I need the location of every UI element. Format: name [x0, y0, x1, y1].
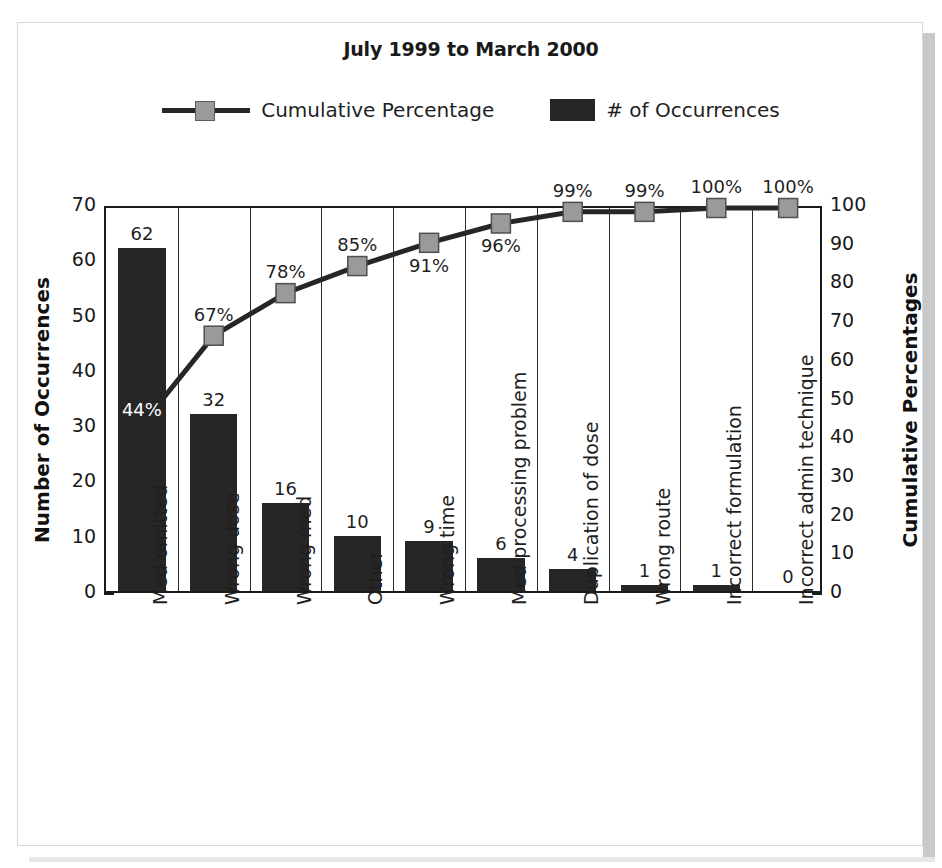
chart-title: July 1999 to March 2000: [0, 38, 942, 60]
category-label-4: Wrong time: [436, 495, 458, 605]
cumulative-marker-4[interactable]: [420, 233, 439, 252]
legend-item-occurrences: # of Occurrences: [550, 98, 780, 122]
category-label-6: Duplication of dose: [580, 422, 602, 605]
y-tick-label-left-50: 50: [56, 304, 96, 326]
y-tick-label-right-30: 30: [830, 464, 874, 486]
cumulative-pct-label-9: 100%: [752, 176, 824, 197]
category-label-1: Wrong dose: [221, 493, 243, 605]
y-axis-title-left: Number of Occurrences: [30, 260, 54, 560]
cumulative-pct-label-6: 99%: [537, 180, 609, 201]
line-marker-icon: [162, 99, 250, 121]
cumulative-marker-1[interactable]: [204, 326, 223, 345]
category-separator: [321, 208, 322, 591]
bar-value-label-3: 10: [321, 511, 393, 532]
y-tick-label-left-60: 60: [56, 248, 96, 270]
category-label-5: Med processing problem: [508, 372, 530, 605]
category-separator: [752, 208, 753, 591]
y-tick-label-right-80: 80: [830, 270, 874, 292]
y-tick-label-left-0: 0: [56, 580, 96, 602]
cumulative-marker-6[interactable]: [563, 202, 582, 221]
cumulative-pct-label-4: 91%: [393, 255, 465, 276]
cumulative-marker-7[interactable]: [635, 202, 654, 221]
cumulative-pct-label-2: 78%: [250, 261, 322, 282]
category-label-8: Incorrect formulation: [723, 405, 745, 605]
y-tick-left: [104, 593, 114, 595]
y-tick-label-left-70: 70: [56, 193, 96, 215]
category-label-0: Med omitted: [149, 485, 171, 605]
category-label-3: Other: [364, 551, 386, 605]
y-tick-label-right-90: 90: [830, 232, 874, 254]
category-separator: [537, 208, 538, 591]
chart-legend: Cumulative Percentage # of Occurrences: [0, 98, 942, 122]
y-tick-label-left-10: 10: [56, 525, 96, 547]
cumulative-pct-label-7: 99%: [609, 180, 681, 201]
cumulative-pct-label-8: 100%: [680, 176, 752, 197]
legend-label-cumulative-percentage: Cumulative Percentage: [261, 98, 494, 122]
y-tick-label-left-20: 20: [56, 469, 96, 491]
bar-value-label-0: 62: [106, 223, 178, 244]
y-tick-label-right-60: 60: [830, 348, 874, 370]
category-separator: [680, 208, 681, 591]
bar-value-label-1: 32: [178, 389, 250, 410]
y-tick-label-right-100: 100: [830, 193, 874, 215]
category-label-9: Incorrect admin technique: [795, 354, 817, 605]
cumulative-marker-5[interactable]: [491, 214, 510, 233]
y-tick-label-right-40: 40: [830, 425, 874, 447]
y-tick-label-right-0: 0: [830, 580, 874, 602]
cumulative-marker-3[interactable]: [348, 257, 367, 276]
cumulative-pct-label-0: 44%: [106, 399, 178, 420]
cumulative-pct-label-1: 67%: [178, 304, 250, 325]
cumulative-pct-label-5: 96%: [465, 235, 537, 256]
y-tick-label-right-20: 20: [830, 503, 874, 525]
y-tick-label-left-30: 30: [56, 414, 96, 436]
bar-swatch-icon: [550, 99, 595, 121]
plot-area: 6232161096411044%67%78%85%91%96%99%99%10…: [104, 206, 822, 593]
y-tick-label-right-50: 50: [830, 387, 874, 409]
y-tick-label-left-40: 40: [56, 359, 96, 381]
category-label-2: Wrong med: [293, 496, 315, 605]
cumulative-pct-label-3: 85%: [321, 234, 393, 255]
y-tick-label-right-10: 10: [830, 541, 874, 563]
figure-shadow-bottom: [29, 857, 935, 862]
legend-item-cumulative-percentage: Cumulative Percentage: [162, 98, 494, 122]
category-label-7: Wrong route: [652, 488, 674, 605]
cumulative-marker-2[interactable]: [276, 284, 295, 303]
legend-label-occurrences: # of Occurrences: [606, 98, 780, 122]
category-separator: [609, 208, 610, 591]
figure-shadow-right: [923, 33, 935, 857]
y-axis-title-right: Cumulative Percentages: [898, 260, 922, 560]
y-tick-label-right-70: 70: [830, 309, 874, 331]
